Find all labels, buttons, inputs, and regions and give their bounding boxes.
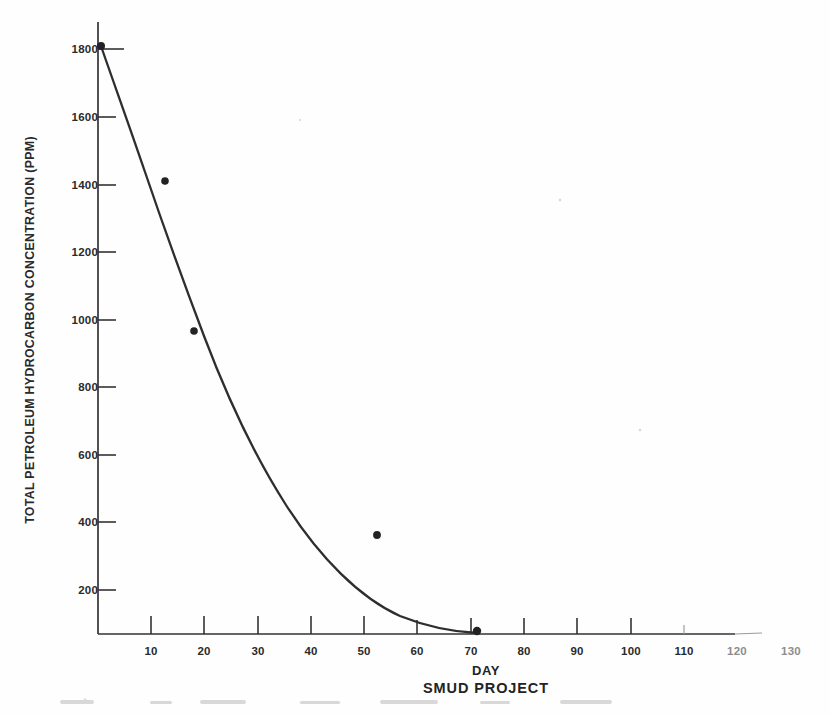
data-points [97,42,481,635]
x-axis-ticks [151,616,684,634]
chart-figure: TOTAL PETROLEUM HYDROCARBON CONCENTRATIO… [0,0,830,715]
data-point-2 [161,177,169,185]
fitted-decay-curve [101,46,477,633]
plot-area [0,0,830,715]
x-axis-line-tail [735,633,762,634]
data-point-1 [97,42,105,50]
y-axis-ticks [98,49,124,590]
scan-artifacts [60,119,641,704]
data-point-3 [190,327,198,335]
data-point-5 [473,627,481,635]
data-point-4 [373,531,381,539]
